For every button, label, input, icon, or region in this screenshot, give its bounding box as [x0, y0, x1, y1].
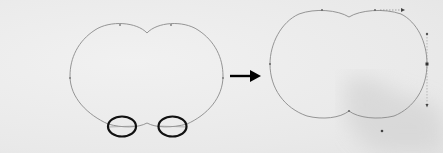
before-path — [70, 24, 223, 127]
anchor-point — [170, 24, 172, 26]
scan-smudge — [345, 77, 443, 153]
anchor-point — [69, 77, 71, 79]
anchor-point — [119, 24, 121, 26]
arrow-icon — [230, 70, 261, 82]
diagram-canvas — [0, 0, 443, 153]
anchor-point-selected — [426, 63, 429, 66]
handle-point — [381, 130, 384, 133]
anchor-point — [374, 9, 376, 11]
anchor-point — [321, 9, 323, 11]
handle-point — [426, 33, 428, 35]
anchor-point — [222, 77, 224, 79]
anchor-point — [348, 110, 350, 112]
before-shape — [69, 24, 224, 137]
diagram-svg — [0, 0, 443, 153]
anchor-point — [269, 63, 271, 65]
handle-arrow-icon — [401, 8, 405, 12]
